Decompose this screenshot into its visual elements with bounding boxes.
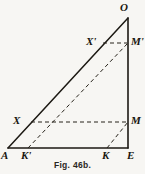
point-label-M-prime: M' [131,36,144,47]
point-label-M: M [131,115,141,126]
point-label-O: O [120,2,128,13]
point-label-X-prime: X' [86,36,96,47]
geometry-figure: O X' M' X M A K' K E Fig. 46b. [0,0,145,174]
segment-dashed-K-M [107,122,128,148]
figure-drawing-canvas [0,0,145,174]
dashed-lines-group [28,43,128,148]
segment-hypotenuse-A-O [8,18,128,148]
figure-caption: Fig. 46b. [0,160,145,170]
segment-dashed-Kprime-Mprime [28,43,128,148]
solid-lines-group [8,18,128,148]
point-label-X: X [13,115,20,126]
